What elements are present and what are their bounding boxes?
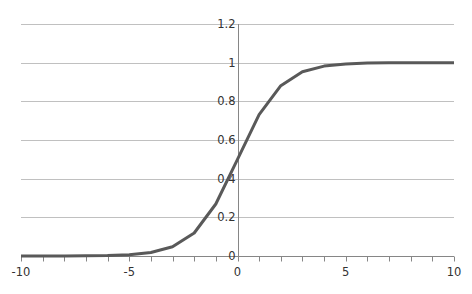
x-tick-label: -10: [12, 265, 31, 279]
y-tick-label: 0.6: [217, 133, 235, 147]
x-tick-label: -5: [124, 265, 135, 279]
x-axis-tick-labels: -10-50510: [12, 265, 462, 279]
y-tick-label: 0: [228, 249, 235, 263]
line-chart: 00.20.40.60.811.2 -10-50510: [0, 0, 472, 294]
x-tick-label: 10: [447, 265, 462, 279]
y-tick-label: 0.2: [217, 210, 235, 224]
y-tick-label: 1: [228, 56, 235, 70]
data-series-line: [21, 63, 454, 256]
x-tick-label: 5: [342, 265, 349, 279]
x-tick-label: 0: [234, 265, 241, 279]
y-axis-tick-labels: 00.20.40.60.811.2: [217, 17, 235, 263]
horizontal-gridlines: [21, 25, 454, 218]
y-tick-label: 1.2: [217, 17, 235, 31]
axes: [21, 24, 455, 262]
y-tick-label: 0.8: [217, 94, 235, 108]
